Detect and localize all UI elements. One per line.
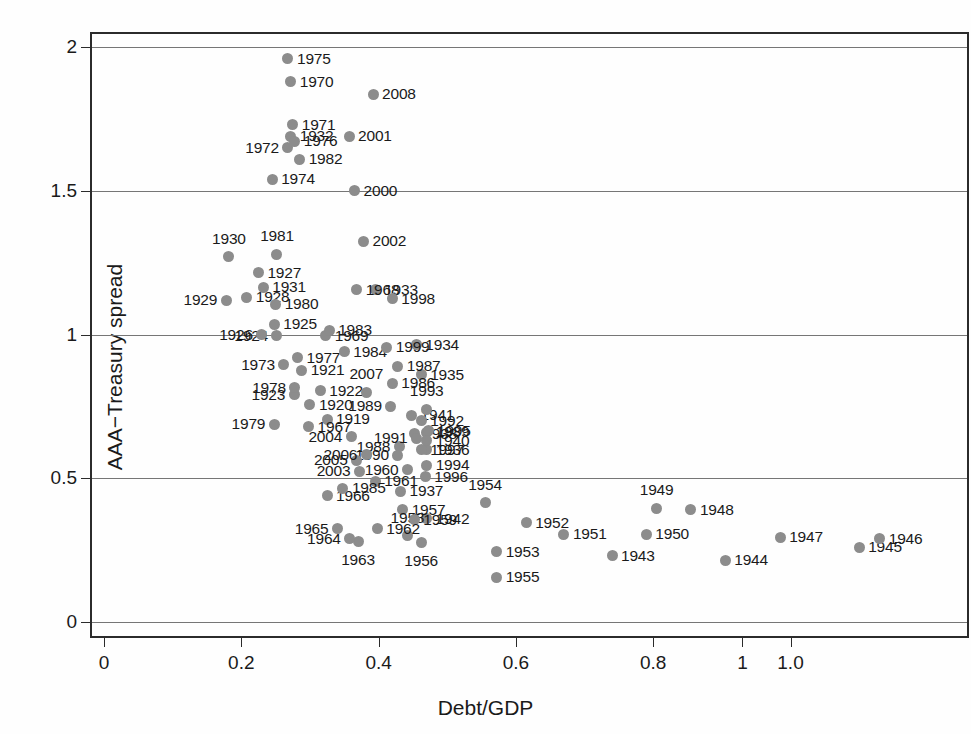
y-tick-mark: [81, 622, 90, 623]
y-tick-label: 0: [66, 611, 77, 633]
y-tick-label: 1: [66, 324, 77, 346]
x-tick-label: 0.2: [228, 652, 254, 674]
x-tick-mark: [742, 638, 743, 647]
y-tick-mark: [81, 335, 90, 336]
x-tick-label: 1.0: [777, 652, 803, 674]
x-axis-label: Debt/GDP: [0, 696, 971, 720]
x-tick-mark: [791, 638, 792, 647]
x-tick-mark: [516, 638, 517, 647]
x-tick-mark: [653, 638, 654, 647]
y-tick-mark: [81, 478, 90, 479]
y-tick-mark: [81, 191, 90, 192]
y-tick-label: 2: [66, 36, 77, 58]
x-tick-label: 0.6: [503, 652, 529, 674]
x-tick-label: 1: [737, 652, 748, 674]
y-tick-mark: [81, 47, 90, 48]
x-tick-label: 0.4: [365, 652, 391, 674]
x-tick-mark: [104, 638, 105, 647]
x-tick-label: 0: [99, 652, 110, 674]
x-tick-mark: [379, 638, 380, 647]
y-tick-label: 1.5: [51, 180, 77, 202]
y-tick-label: 0.5: [51, 467, 77, 489]
x-tick-mark: [241, 638, 242, 647]
plot-frame-border: [90, 32, 969, 638]
scatter-plot-figure: AAA−Treasury spread Debt/GDP 00.511.52 0…: [0, 0, 971, 734]
x-tick-label: 0.8: [640, 652, 666, 674]
